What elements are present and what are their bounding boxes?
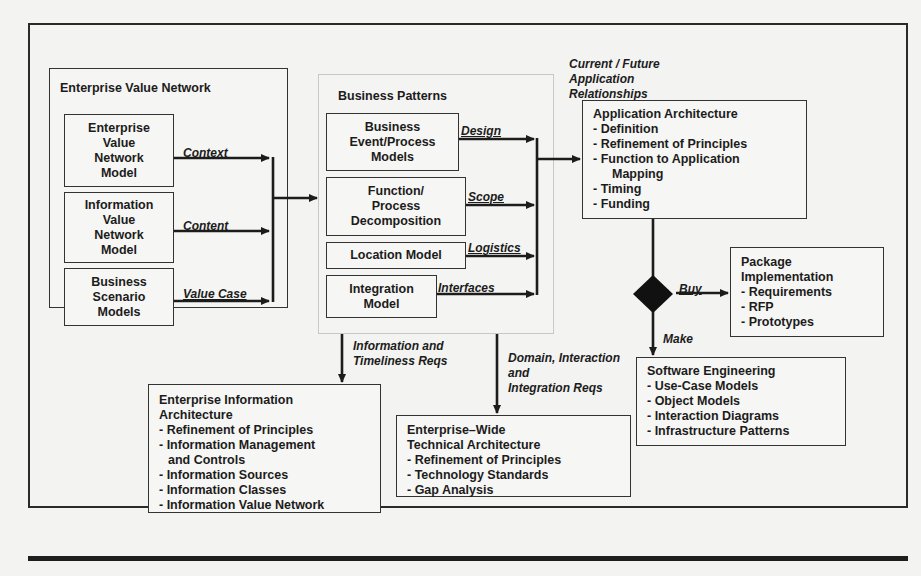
decision-diamond-icon: [633, 275, 673, 313]
connector-lines: [0, 0, 921, 576]
